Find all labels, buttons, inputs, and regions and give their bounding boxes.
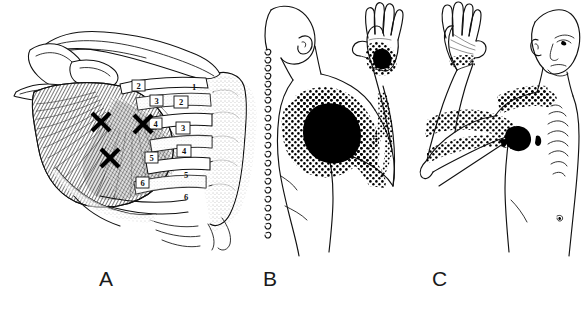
intercostal-label-1-text: 1 <box>192 82 196 92</box>
rib-label-4: 4 <box>149 118 162 129</box>
rib-label-2-text: 2 <box>136 81 140 91</box>
intercostal-label-6-text: 6 <box>184 192 188 202</box>
pain-spillover-wrist <box>449 55 475 68</box>
intercostal-label-3: 3 <box>176 122 190 134</box>
intercostal-label-2: 2 <box>174 96 188 108</box>
intercostal-label-5: 5 <box>184 170 188 180</box>
panel-caption-a: A <box>99 268 114 289</box>
intercostal-label-2-text: 2 <box>179 97 183 107</box>
rib-label-5-text: 5 <box>149 153 153 163</box>
panel-c-referred-pain-anterior <box>405 0 581 262</box>
rib-label-5: 5 <box>145 152 158 163</box>
pain-spillover-upper-chest <box>491 80 561 120</box>
panel-a-anatomy: 2 3 4 5 6 <box>0 0 268 262</box>
rib-label-2: 2 <box>132 80 145 91</box>
intercostal-label-5-text: 5 <box>184 170 188 180</box>
vertebral-column-dots <box>265 49 271 238</box>
panel-b-referred-pain-posterior <box>255 0 420 262</box>
intercostal-label-6: 6 <box>184 192 188 202</box>
rib-label-3: 3 <box>150 95 163 106</box>
intercostal-label-4: 4 <box>177 145 191 157</box>
head-outline <box>265 6 321 80</box>
intercostal-label-1: 1 <box>192 82 196 92</box>
rib-label-6-text: 6 <box>140 178 144 188</box>
rib-label-6: 6 <box>136 177 149 188</box>
pain-hand-dorsum <box>366 42 397 76</box>
panel-caption-c: C <box>432 268 448 289</box>
panel-caption-b: B <box>263 268 278 289</box>
intercostal-label-3-text: 3 <box>181 123 185 133</box>
rib-label-3-text: 3 <box>154 96 158 106</box>
figure-container: 2 3 4 5 6 <box>0 0 581 320</box>
body-outline <box>495 92 579 256</box>
head-outline <box>531 10 580 96</box>
